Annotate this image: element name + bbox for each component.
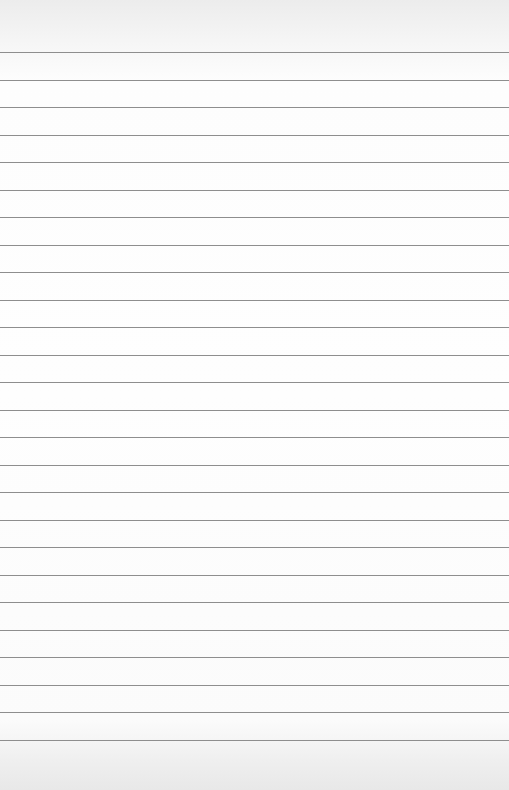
ruled-line xyxy=(0,162,509,163)
ruled-line xyxy=(0,520,509,521)
ruled-line xyxy=(0,685,509,686)
ruled-line xyxy=(0,382,509,383)
ruled-line xyxy=(0,712,509,713)
ruled-line xyxy=(0,272,509,273)
ruled-line xyxy=(0,217,509,218)
ruled-line xyxy=(0,437,509,438)
ruled-line xyxy=(0,107,509,108)
ruled-line xyxy=(0,327,509,328)
ruled-line xyxy=(0,300,509,301)
ruled-line xyxy=(0,80,509,81)
ruled-line xyxy=(0,245,509,246)
lined-paper-sheet xyxy=(0,0,509,790)
ruled-line xyxy=(0,410,509,411)
ruled-line xyxy=(0,657,509,658)
ruled-line xyxy=(0,52,509,53)
ruled-line xyxy=(0,465,509,466)
ruled-line xyxy=(0,492,509,493)
ruled-line xyxy=(0,547,509,548)
ruled-line xyxy=(0,135,509,136)
ruled-line xyxy=(0,602,509,603)
ruled-line xyxy=(0,190,509,191)
ruled-line xyxy=(0,630,509,631)
ruled-line xyxy=(0,740,509,741)
ruled-line xyxy=(0,575,509,576)
ruled-line xyxy=(0,355,509,356)
